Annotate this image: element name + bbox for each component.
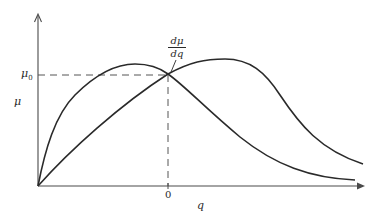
mu0-subscript: 0 xyxy=(28,74,32,82)
diagram: μ0 μ 0 q dμ dq xyxy=(0,0,377,218)
derivative-annotation: dμ dq xyxy=(168,36,186,59)
x-zero-label: 0 xyxy=(165,190,171,200)
diagram-canvas xyxy=(0,0,377,218)
curve-late-peak xyxy=(38,59,363,186)
derivative-denominator: dq xyxy=(171,48,184,59)
mu0-label: μ0 xyxy=(21,68,33,82)
x-axis-label: q xyxy=(197,200,204,211)
y-axis-label: μ xyxy=(14,96,21,107)
curve-early-peak xyxy=(38,64,355,186)
derivative-numerator: dμ xyxy=(171,35,184,46)
x-axis-arrow-icon xyxy=(357,183,365,190)
